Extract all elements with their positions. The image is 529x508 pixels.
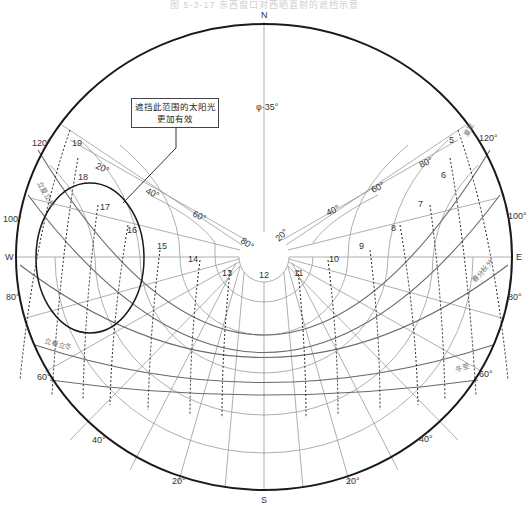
altitude-label: 20° [273, 226, 290, 243]
azimuth-grid [16, 22, 512, 490]
altitude-label: 40° [325, 203, 342, 218]
summer-solstice-label: 夏至 [463, 122, 477, 138]
hour-label: 5 [449, 135, 454, 145]
azimuth-label: 20° [172, 476, 186, 486]
callout-line1: 遮挡此范围的太阳光 [132, 101, 218, 113]
azimuth-label: 80° [6, 292, 20, 302]
altitude-label: 20° [94, 161, 111, 176]
altitude-label: 40° [144, 186, 161, 201]
azimuth-label: 120° [32, 138, 51, 148]
north-label: N [261, 10, 268, 20]
hour-label: 7 [418, 199, 423, 209]
equinox-label: 春分秋分 [470, 258, 495, 285]
hour-label: 15 [157, 241, 167, 251]
hour-label: 16 [127, 225, 137, 235]
azimuth-label: 120° [479, 133, 498, 143]
sun-path-diagram: N S E W φ·35° 120° 100° 80° 60° 40° 20° … [0, 0, 529, 508]
west-label: W [5, 252, 14, 262]
callout-line2: 更加有效 [132, 113, 218, 125]
winter-solstice-label: 冬至 [454, 362, 470, 374]
hour-label: 14 [188, 254, 198, 264]
azimuth-label: 60° [37, 372, 51, 382]
azimuth-label: 100° [508, 211, 527, 221]
start-spring-label: 立春立冬 [43, 336, 72, 352]
altitude-label: 80° [239, 235, 256, 251]
south-label: S [261, 495, 267, 505]
azimuth-label: 40° [92, 435, 106, 445]
azimuth-label: 100° [3, 214, 22, 224]
hour-label: 12 [259, 270, 269, 280]
hour-label: 13 [222, 268, 232, 278]
hour-label: 18 [78, 172, 88, 182]
altitude-label: 80° [418, 155, 435, 170]
hour-label: 9 [359, 241, 364, 251]
latitude-label: φ·35° [256, 102, 279, 112]
azimuth-label: 60° [479, 369, 493, 379]
hour-label: 8 [391, 223, 396, 233]
azimuth-label: 80° [508, 292, 522, 302]
azimuth-label: 20° [346, 476, 360, 486]
hour-label: 6 [441, 170, 446, 180]
callout-box: 遮挡此范围的太阳光 更加有效 [131, 98, 219, 128]
hour-label: 11 [294, 268, 303, 278]
hour-label: 19 [72, 138, 82, 148]
azimuth-label: 40° [419, 434, 433, 444]
hour-label: 10 [329, 254, 339, 264]
hour-label: 17 [100, 202, 110, 212]
east-label: E [516, 252, 522, 262]
